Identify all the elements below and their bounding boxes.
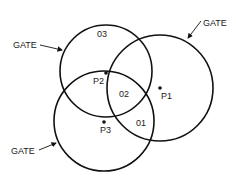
gate-label-top-left: GATE [13,40,37,50]
point-label-p1: P1 [161,91,172,101]
gate-label-top-right: GATE [203,18,227,28]
point-p3-dot [102,120,106,124]
point-p2-dot [104,71,108,75]
region-label-02: 02 [119,89,129,99]
point-label-p2: P2 [93,76,104,86]
gate-label-bottom-left: GATE [11,146,35,156]
point-label-p3: P3 [100,125,111,135]
region-label-01: 01 [136,118,146,128]
arrow-icon [40,45,62,50]
region-label-03: 03 [97,29,107,39]
arrow-icon [39,143,56,150]
arrow-icon [188,21,201,38]
venn-gate-diagram: GATE GATE GATE 03 02 01 P2 P1 P3 [0,0,236,180]
point-p1-dot [158,86,162,90]
